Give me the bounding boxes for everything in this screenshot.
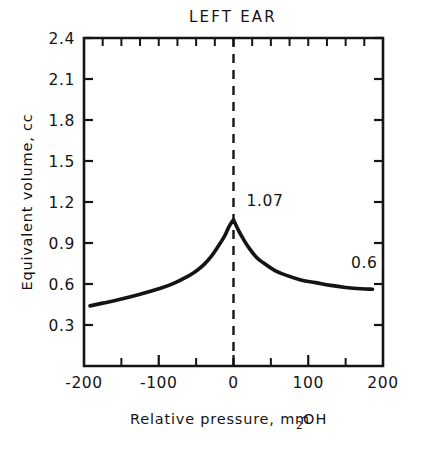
x-axis-tick-label: -100 — [140, 374, 178, 392]
y-axis-tick-label: 1.2 — [49, 194, 75, 212]
y-axis-tick-label: 2.1 — [49, 71, 75, 89]
peak-value-annotation: 1.07 — [247, 192, 284, 210]
y-axis-tick-label: 1.5 — [49, 153, 75, 171]
x-axis-tick-label: 200 — [367, 374, 398, 392]
x-axis-tick-label: 100 — [293, 374, 324, 392]
x-axis-title-tail: O — [303, 411, 315, 427]
y-axis-tick-label: 2.4 — [49, 30, 75, 48]
y-axis-tick-label: 1.8 — [49, 112, 75, 130]
chart-title: LEFT EAR — [189, 8, 277, 26]
tympanogram-chart: LEFT EAR 0.30.60.91.21.51.82.12.4 -200-1… — [0, 0, 429, 449]
chart-figure: LEFT EAR 0.30.60.91.21.51.82.12.4 -200-1… — [0, 0, 429, 449]
y-axis-tick-label: 0.9 — [49, 235, 75, 253]
x-axis-title-subscript: 2 — [296, 419, 303, 431]
x-axis-tick-label: 0 — [228, 374, 238, 392]
y-axis-tick-label: 0.6 — [49, 276, 75, 294]
y-axis-title: Equivalent volume, cc — [19, 113, 35, 290]
tail-value-annotation: 0.6 — [351, 254, 377, 272]
x-axis-tick-label: -200 — [65, 374, 103, 392]
y-axis-tick-label: 0.3 — [49, 317, 75, 335]
